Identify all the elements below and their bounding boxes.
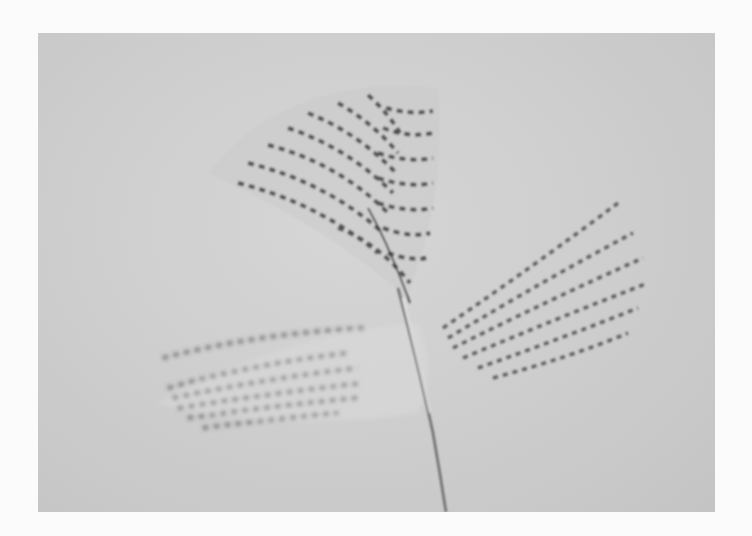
feather-photograph	[38, 33, 715, 512]
lower-left-feather	[158, 323, 428, 428]
feather-illustration	[38, 33, 715, 512]
right-feather	[443, 203, 648, 378]
upper-feather	[208, 86, 440, 303]
